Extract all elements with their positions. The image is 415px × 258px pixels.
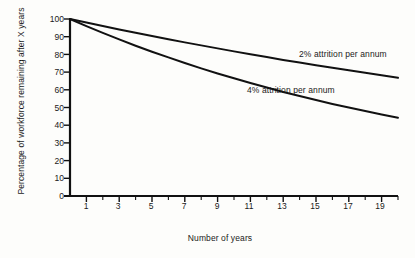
data-series-lines bbox=[70, 19, 398, 118]
attrition-line-chart: Percentage of workforce remaining after … bbox=[0, 0, 415, 258]
axis-ticks bbox=[64, 19, 398, 202]
plot-area bbox=[0, 0, 415, 258]
